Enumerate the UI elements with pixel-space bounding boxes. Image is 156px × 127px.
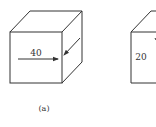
diagram-canvas: 40 (a) 20 [0,0,156,127]
cube-b-top-face [131,11,156,32]
cube-a-caption: (a) [38,104,49,113]
cube-a-force-label: 40 [30,48,42,58]
cube-b-arrow-fragment [155,38,156,40]
cube-a [10,11,82,83]
cube-b [131,11,156,83]
cube-a-diagonal-force-arrow [64,38,80,55]
cube-a-top-face [10,11,82,32]
cube-b-force-label: 20 [135,52,147,62]
